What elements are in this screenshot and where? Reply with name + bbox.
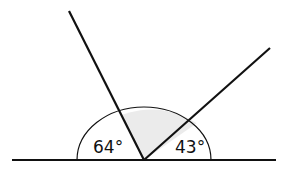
left-angle-label: 64° <box>93 137 123 157</box>
angle-diagram: 64° 43° <box>0 0 288 171</box>
right-angle-label: 43° <box>175 137 205 157</box>
right-ray <box>144 48 270 160</box>
diagram-svg: 64° 43° <box>0 0 288 171</box>
